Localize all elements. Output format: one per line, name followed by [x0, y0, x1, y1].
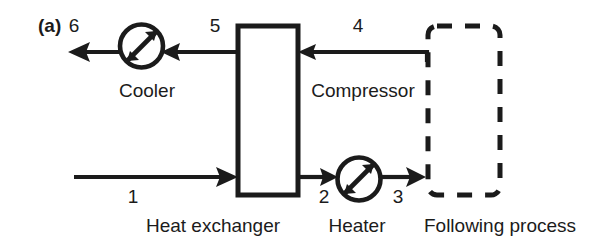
stream-label-1: 1	[128, 186, 139, 207]
compressor-label: Compressor	[311, 80, 415, 101]
flowsheet-canvas: (a) 6 5 4 1 2 3 Cooler Compressor Heat e…	[0, 0, 616, 247]
stream-4-line	[298, 44, 427, 62]
stream-label-2: 2	[319, 186, 330, 207]
stream-3-line	[380, 167, 426, 187]
heat-exchanger-label: Heat exchanger	[146, 215, 281, 236]
cooler-symbol	[120, 25, 163, 68]
heat-exchanger-box	[238, 26, 298, 195]
stream-label-3: 3	[393, 186, 404, 207]
cooler-label: Cooler	[119, 80, 176, 101]
heater-symbol	[338, 158, 381, 201]
stream-label-5: 5	[210, 15, 221, 36]
stream-6-line	[68, 42, 122, 62]
stream-2-line	[298, 168, 338, 186]
stream-5-line	[161, 43, 238, 61]
heater-label: Heater	[328, 215, 386, 236]
process-flow-diagram: (a) 6 5 4 1 2 3 Cooler Compressor Heat e…	[0, 0, 616, 247]
panel-label: (a)	[38, 15, 61, 36]
stream-label-4: 4	[353, 15, 364, 36]
following-process-label: Following process	[424, 215, 576, 236]
stream-1-line	[74, 167, 238, 187]
following-process-box	[428, 26, 500, 195]
stream-label-6: 6	[69, 15, 80, 36]
